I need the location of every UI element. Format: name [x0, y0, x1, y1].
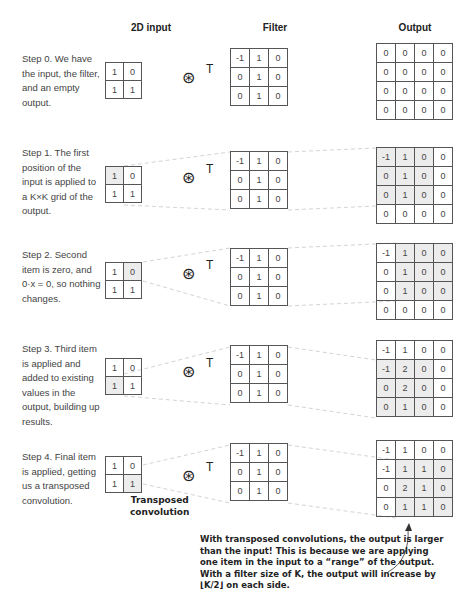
cell: 0 [269, 384, 288, 403]
step-4-description: Step 4. Final item is applied, getting u… [22, 450, 102, 508]
cell: 0 [434, 282, 453, 301]
cell: 0 [415, 82, 434, 101]
transposed-convolution-label: Transposed convolution [130, 494, 189, 518]
cell: 1 [106, 359, 124, 377]
cell: 1 [106, 281, 124, 299]
filter-grid: -110 010 010 [230, 345, 288, 403]
cell: 0 [434, 82, 453, 101]
transposed-conv-operator-icon: ⊛ [182, 466, 195, 485]
cell: 0 [377, 44, 396, 63]
cell: 0 [124, 359, 142, 377]
cell: 0 [377, 379, 396, 398]
cell: -1 [231, 249, 250, 268]
cell: 0 [124, 167, 142, 185]
transpose-superscript: T [206, 356, 213, 370]
cell: 1 [250, 384, 269, 403]
cell: -1 [231, 346, 250, 365]
cell: 0 [415, 186, 434, 205]
cell: 0 [269, 463, 288, 482]
cell: 1 [396, 398, 415, 417]
cell: 1 [106, 475, 124, 493]
cell: 1 [106, 185, 124, 203]
step-3-description: Step 3. Third item is applied and added … [22, 342, 102, 429]
transpose-superscript: T [206, 258, 213, 272]
cell: 0 [434, 167, 453, 186]
cell: 1 [106, 457, 124, 475]
cell: 1 [396, 244, 415, 263]
cell: 0 [377, 167, 396, 186]
cell: 0 [434, 341, 453, 360]
cell: 0 [231, 190, 250, 209]
cell: 0 [434, 479, 453, 498]
cell: 1 [124, 81, 142, 99]
cell: 0 [434, 244, 453, 263]
caption-line: With a filter size of K, the output will… [200, 569, 465, 581]
transpose-superscript: T [206, 62, 213, 76]
header-filter: Filter [240, 22, 310, 33]
cell: 0 [231, 384, 250, 403]
cell: 1 [250, 444, 269, 463]
cell: 0 [377, 301, 396, 320]
caption-line: than the input! This is because we are a… [200, 546, 465, 558]
cell: 0 [415, 301, 434, 320]
cell: 1 [396, 148, 415, 167]
input-grid: 10 11 [105, 166, 142, 203]
cell: 1 [124, 185, 142, 203]
cell: 0 [434, 360, 453, 379]
cell: 0 [377, 398, 396, 417]
cell: 0 [434, 44, 453, 63]
cell: 0 [415, 263, 434, 282]
cell: 1 [250, 463, 269, 482]
cell: 1 [396, 441, 415, 460]
output-grid: -1100 0100 0100 0000 [376, 243, 453, 320]
cell: 0 [434, 460, 453, 479]
cell: 0 [377, 205, 396, 224]
cell: 1 [124, 475, 142, 493]
input-grid: 10 11 [105, 62, 142, 99]
cell: 0 [124, 63, 142, 81]
output-grid: -1100 -1110 0210 0110 [376, 440, 453, 517]
cell: 2 [396, 379, 415, 398]
step-2-description: Step 2. Second item is zero, and 0·x = 0… [22, 248, 102, 306]
cell: 0 [396, 301, 415, 320]
input-grid: 10 11 [105, 358, 142, 395]
cell: 0 [377, 82, 396, 101]
cell: 0 [396, 63, 415, 82]
cell: 0 [269, 249, 288, 268]
cell: 1 [415, 460, 434, 479]
cell: 1 [106, 167, 124, 185]
cell: 0 [434, 379, 453, 398]
cell: 0 [434, 301, 453, 320]
transpose-superscript: T [206, 162, 213, 176]
filter-grid: -110 010 010 [230, 248, 288, 306]
cell: 0 [377, 63, 396, 82]
cell: 1 [106, 377, 124, 395]
cell: 0 [415, 148, 434, 167]
cell: 1 [396, 460, 415, 479]
cell: 1 [396, 167, 415, 186]
cell: 1 [250, 482, 269, 501]
cell: 0 [415, 441, 434, 460]
filter-grid: -110 010 010 [230, 48, 288, 106]
cell: 0 [396, 101, 415, 120]
cell: 0 [377, 479, 396, 498]
cell: 0 [231, 268, 250, 287]
cell: -1 [231, 49, 250, 68]
cell: 0 [415, 282, 434, 301]
cell: 0 [269, 482, 288, 501]
cell: -1 [377, 441, 396, 460]
cell: -1 [377, 460, 396, 479]
label-line: convolution [130, 506, 189, 518]
cell: 0 [434, 205, 453, 224]
cell: 0 [269, 87, 288, 106]
cell: 0 [396, 44, 415, 63]
filter-grid: -110 010 010 [230, 443, 288, 501]
cell: 0 [377, 101, 396, 120]
cell: 1 [106, 63, 124, 81]
cell: 1 [396, 186, 415, 205]
cell: 0 [434, 148, 453, 167]
caption-line: With transposed convolutions, the output… [200, 534, 465, 546]
cell: 2 [396, 479, 415, 498]
cell: -1 [231, 152, 250, 171]
input-grid: 10 11 [105, 456, 142, 493]
